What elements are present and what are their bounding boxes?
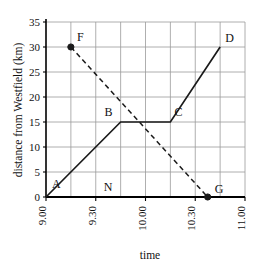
x-tick-label: 10.00 bbox=[136, 206, 148, 231]
point-label-C: C bbox=[174, 105, 182, 119]
point-label-D: D bbox=[225, 31, 234, 45]
point-label-G: G bbox=[215, 182, 224, 196]
y-tick-label: 25 bbox=[29, 66, 41, 78]
point-label-F: F bbox=[77, 30, 84, 44]
y-tick-label: 20 bbox=[29, 91, 41, 103]
y-tick-label: 15 bbox=[29, 116, 41, 128]
x-tick-label: 10.30 bbox=[185, 206, 197, 231]
y-tick-label: 10 bbox=[29, 141, 41, 153]
distance-time-graph: 05101520253035 9.009.3010.0010.3011.00 A… bbox=[0, 0, 263, 264]
x-tick-label: 9.30 bbox=[86, 206, 98, 226]
point-label-A: A bbox=[52, 177, 61, 191]
x-axis-title: time bbox=[140, 249, 160, 261]
y-axis-title: distance from Westfield (km) bbox=[12, 43, 25, 178]
y-tick-label: 0 bbox=[35, 191, 41, 203]
point-label-N: N bbox=[104, 180, 113, 194]
x-tick-label: 9.00 bbox=[36, 206, 48, 226]
x-tick-label: 11.00 bbox=[235, 206, 247, 231]
data-point-marker-G bbox=[205, 194, 211, 200]
y-tick-label: 30 bbox=[29, 41, 41, 53]
data-point-marker-F bbox=[68, 44, 74, 50]
y-tick-label: 5 bbox=[35, 166, 41, 178]
point-label-B: B bbox=[105, 105, 113, 119]
y-tick-label: 35 bbox=[29, 16, 41, 28]
